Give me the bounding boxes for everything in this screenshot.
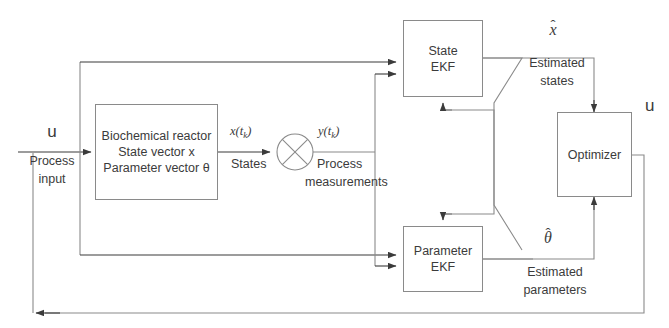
label-measurements-caption-line2: measurements — [305, 175, 388, 190]
measurements-symbol-close: ) — [335, 124, 339, 138]
label-measurements-caption-line1: Process — [317, 157, 362, 172]
block-diagram: Biochemical reactor State vector x Param… — [0, 0, 669, 328]
state-ekf-line-1: State — [428, 43, 457, 59]
block-parameter-ekf[interactable]: Parameter EKF — [403, 226, 483, 292]
label-states-caption: States — [231, 157, 266, 172]
label-estimated-states-symbol: ̂x — [549, 22, 556, 37]
parameter-ekf-line-2: EKF — [431, 259, 455, 275]
block-biochemical-reactor[interactable]: Biochemical reactor State vector x Param… — [95, 104, 218, 200]
label-input-u: u — [47, 124, 56, 139]
label-estimated-states-caption-line1: Estimated — [529, 56, 585, 71]
label-process-input-line1: Process — [29, 154, 74, 169]
state-ekf-line-2: EKF — [431, 59, 455, 75]
wire-estimated-parameters-to-optimizer — [483, 203, 594, 259]
wire-xhat-into-parameter-ekf — [443, 214, 452, 220]
block-optimizer[interactable]: Optimizer — [557, 112, 632, 197]
label-estimated-states-caption-line2: states — [540, 74, 573, 89]
label-estimated-parameters-caption-line2: parameters — [523, 283, 586, 298]
wire-thetahat-into-state-ekf — [443, 103, 452, 110]
reactor-line-3: Parameter vector θ — [103, 160, 209, 176]
label-process-input-line2: input — [38, 172, 65, 187]
block-state-ekf[interactable]: State EKF — [403, 20, 483, 97]
reactor-line-1: Biochemical reactor — [102, 128, 212, 144]
optimizer-line-1: Optimizer — [568, 147, 621, 163]
label-estimated-parameters-caption-line1: Estimated — [527, 265, 583, 280]
estimated-states-var: x — [549, 21, 556, 38]
label-estimated-parameters-symbol: ̂θ — [544, 230, 552, 245]
states-symbol-close: ) — [247, 124, 251, 138]
parameter-ekf-line-1: Parameter — [414, 243, 472, 259]
estimated-parameters-var: θ — [544, 229, 552, 246]
reactor-line-2: State vector x — [118, 144, 194, 160]
label-states-symbol: x(tk) — [230, 124, 251, 143]
label-measurements-symbol: y(tk) — [318, 124, 339, 143]
label-optimizer-output-u: u — [645, 98, 654, 113]
